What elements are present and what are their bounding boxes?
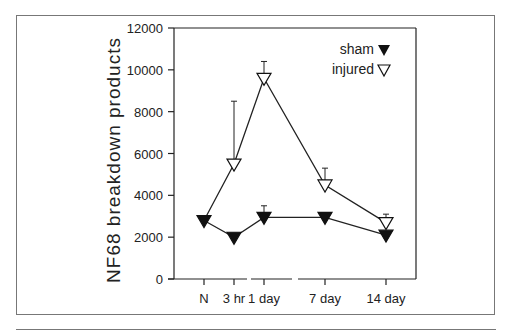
open-down-triangle-icon bbox=[227, 159, 241, 171]
y-axis-label: NF68 breakdown products bbox=[103, 37, 124, 283]
y-tick-label: 0 bbox=[156, 272, 163, 287]
y-tick-label: 12000 bbox=[127, 21, 163, 36]
y-tick-label: 8000 bbox=[134, 105, 163, 120]
filled-down-triangle-icon bbox=[257, 212, 271, 224]
filled-down-triangle-icon bbox=[227, 232, 241, 244]
x-ticks: N3 hr1 day7 day14 day bbox=[199, 279, 406, 306]
y-tick-label: 2000 bbox=[134, 230, 163, 245]
open-down-triangle-icon bbox=[318, 180, 332, 192]
open-down-triangle-icon bbox=[378, 65, 390, 76]
filled-down-triangle-icon bbox=[197, 216, 211, 228]
legend: sham injured bbox=[332, 41, 390, 77]
series-line bbox=[204, 78, 386, 222]
y-tick-label: 4000 bbox=[134, 188, 163, 203]
data-series bbox=[197, 61, 393, 244]
y-ticks: 020004000600080001000012000 bbox=[127, 21, 174, 287]
x-tick-label: 1 day bbox=[248, 291, 280, 306]
y-tick-label: 6000 bbox=[134, 147, 163, 162]
legend-injured-label: injured bbox=[332, 61, 374, 77]
filled-down-triangle-icon bbox=[378, 45, 390, 56]
open-down-triangle-icon bbox=[379, 218, 393, 230]
legend-sham-label: sham bbox=[340, 41, 374, 57]
x-tick-label: 14 day bbox=[366, 291, 406, 306]
series-sham bbox=[197, 206, 393, 244]
x-tick-label: 7 day bbox=[309, 291, 341, 306]
y-tick-label: 10000 bbox=[127, 63, 163, 78]
series-injured bbox=[204, 61, 393, 229]
x-tick-label: 3 hr bbox=[223, 291, 246, 306]
open-down-triangle-icon bbox=[257, 73, 271, 85]
line-chart: NF68 breakdown products 0200040006000800… bbox=[0, 0, 509, 335]
filled-down-triangle-icon bbox=[379, 230, 393, 242]
x-tick-label: N bbox=[199, 291, 208, 306]
